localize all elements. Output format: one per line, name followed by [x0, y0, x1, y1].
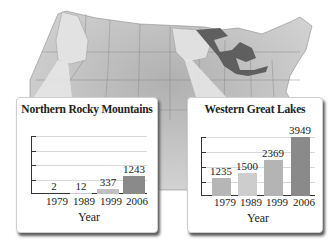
x-axis-title: Year: [228, 211, 288, 226]
value-label-1999: 2369: [253, 147, 293, 159]
plot-area: 2 12 337 1243: [31, 136, 147, 194]
chart-panel-western-great-lakes: Western Great Lakes 1235 1500 2369 3949 …: [187, 97, 323, 233]
chart-title: Western Great Lakes: [188, 103, 322, 115]
y-axis: [31, 136, 32, 194]
x-axis-title: Year: [59, 210, 119, 225]
x-tick-2006: 2006: [120, 195, 154, 207]
value-label-1999: 337: [88, 176, 128, 188]
value-label-1989: 1500: [227, 160, 267, 172]
x-tick-2006: 2006: [287, 196, 321, 208]
bar-2006: [291, 137, 310, 196]
bar-1979: [212, 178, 231, 196]
bar-1989: [70, 193, 92, 194]
plot-area: 1235 1500 2369 3949: [201, 137, 315, 196]
chart-panel-northern-rocky-mountains: Northern Rocky Mountains 2 12 337 1243 1…: [16, 97, 158, 233]
figure: Northern Rocky Mountains 2 12 337 1243 1…: [0, 0, 332, 246]
chart-title: Northern Rocky Mountains: [17, 103, 157, 115]
value-label-2006: 1243: [114, 163, 154, 175]
value-label-2006: 3949: [280, 124, 320, 136]
